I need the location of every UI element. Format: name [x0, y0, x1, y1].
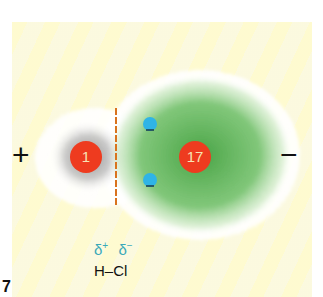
partial-charges: δ+ δ−: [94, 240, 133, 258]
delta-positive-sup: +: [102, 240, 108, 251]
delta-negative-sup: −: [127, 240, 133, 251]
hydrogen-atomic-number: 1: [70, 141, 102, 173]
figure-number: 7: [2, 278, 11, 296]
molecule-formula: H–Cl: [94, 262, 127, 279]
electron-top: [143, 117, 157, 131]
chlorine-atomic-number: 17: [179, 141, 211, 173]
positive-pole-sign: +: [12, 140, 30, 170]
electron-bottom: [143, 173, 157, 187]
delta-negative: δ: [118, 241, 126, 258]
negative-pole-sign: −: [280, 140, 298, 170]
hcl-molecule-diagram: [0, 0, 323, 297]
